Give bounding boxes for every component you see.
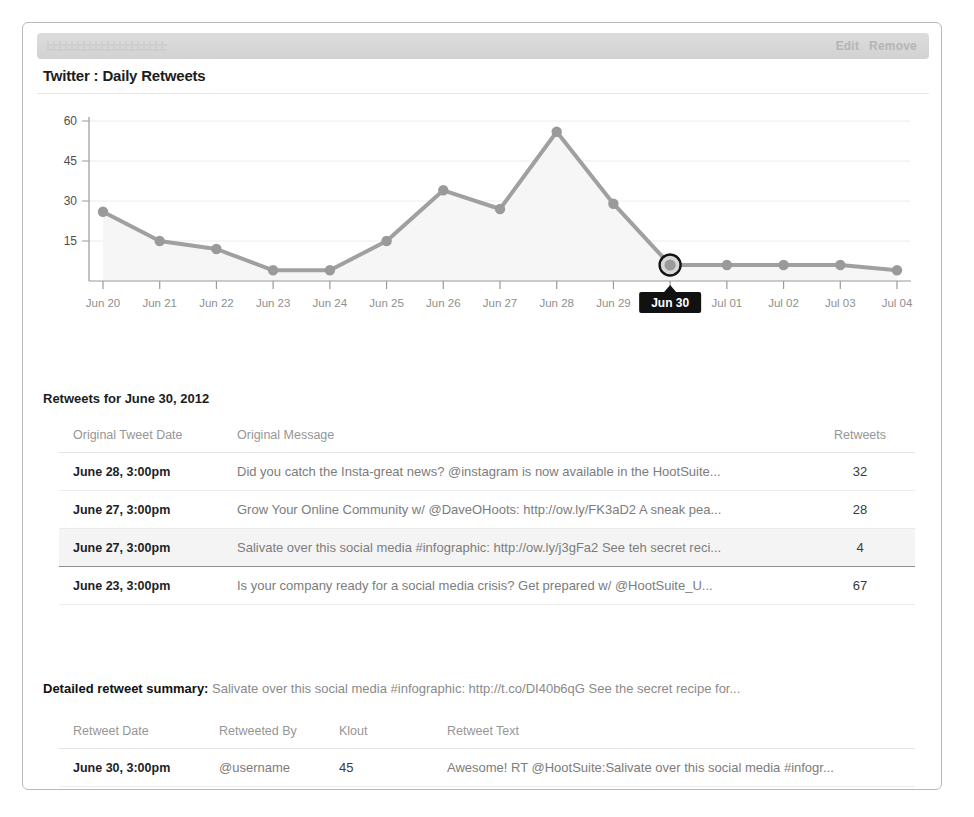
chart-data-point	[552, 127, 562, 137]
x-axis-tick-label: Jul 03	[825, 297, 856, 309]
daily-retweets-chart[interactable]: 15304560Jun 20Jun 21Jun 22Jun 23Jun 24Ju…	[37, 103, 929, 338]
cell-retweets-count: 32	[805, 453, 915, 491]
summary-text: Salivate over this social media #infogra…	[212, 681, 740, 696]
y-axis-tick-label: 30	[64, 194, 78, 208]
retweets-section-heading: Retweets for June 30, 2012	[43, 391, 209, 406]
table-header-row: Retweet Date Retweeted By Klout Retweet …	[59, 715, 915, 749]
cell-original-message: Salivate over this social media #infogra…	[237, 529, 805, 567]
summary-label: Detailed retweet summary:	[43, 681, 208, 696]
column-header-klout[interactable]: Klout	[339, 715, 419, 749]
column-header-original-message[interactable]: Original Message	[237, 419, 805, 453]
chart-data-point	[438, 185, 448, 195]
x-axis-tick-label: Jun 20	[86, 297, 121, 309]
x-axis-tick-label: Jun 25	[369, 297, 404, 309]
chart-data-point	[495, 204, 505, 214]
edit-link[interactable]: Edit	[836, 39, 859, 53]
page-title: Twitter : Daily Retweets	[43, 67, 205, 84]
retweet-detail-table: Retweet Date Retweeted By Klout Retweet …	[59, 715, 915, 787]
module-header-bar[interactable]: Edit Remove	[37, 33, 929, 59]
y-axis-tick-label: 60	[64, 114, 78, 128]
chart-data-point	[778, 260, 788, 270]
remove-link[interactable]: Remove	[869, 39, 917, 53]
x-axis-tick-label: Jul 01	[712, 297, 743, 309]
twitter-retweets-module: Edit Remove Twitter : Daily Retweets 153…	[22, 22, 942, 790]
cell-retweets-count: 28	[805, 491, 915, 529]
y-axis-tick-label: 15	[64, 234, 78, 248]
chart-data-point	[892, 265, 902, 275]
chart-data-point	[268, 265, 278, 275]
x-axis-tick-label: Jun 28	[539, 297, 574, 309]
chart-data-point	[211, 244, 221, 254]
column-header-retweeted-by[interactable]: Retweeted By	[219, 715, 339, 749]
cell-retweet-text: Awesome! RT @HootSuite:Salivate over thi…	[419, 749, 915, 787]
cell-original-tweet-date: June 23, 3:00pm	[59, 567, 237, 605]
cell-retweeted-by: @username	[219, 749, 339, 787]
table-row[interactable]: June 28, 3:00pmDid you catch the Insta-g…	[59, 453, 915, 491]
cell-original-message: Is your company ready for a social media…	[237, 567, 805, 605]
chart-data-point	[608, 199, 618, 209]
x-axis-tick-label: Jun 26	[426, 297, 461, 309]
cell-original-message: Did you catch the Insta-great news? @ins…	[237, 453, 805, 491]
chart-selected-point	[665, 259, 676, 270]
column-header-retweets[interactable]: Retweets	[805, 419, 915, 453]
column-header-retweet-text[interactable]: Retweet Text	[419, 715, 915, 749]
cell-retweets-count: 67	[805, 567, 915, 605]
cell-original-tweet-date: June 28, 3:00pm	[59, 453, 237, 491]
cell-original-tweet-date: June 27, 3:00pm	[59, 529, 237, 567]
chart-data-point	[381, 236, 391, 246]
x-axis-tick-label: Jun 22	[199, 297, 234, 309]
cell-klout-score: 45	[339, 749, 419, 787]
chart-svg: 15304560Jun 20Jun 21Jun 22Jun 23Jun 24Ju…	[37, 103, 929, 338]
drag-handle-icon[interactable]	[47, 41, 167, 51]
x-axis-tick-label: Jun 27	[483, 297, 518, 309]
chart-data-point	[835, 260, 845, 270]
column-header-retweet-date[interactable]: Retweet Date	[59, 715, 219, 749]
cell-retweets-count: 4	[805, 529, 915, 567]
module-actions: Edit Remove	[836, 33, 917, 59]
table-row[interactable]: June 30, 3:00pm@username45Awesome! RT @H…	[59, 749, 915, 787]
cell-retweet-date: June 30, 3:00pm	[59, 749, 219, 787]
x-axis-tick-label: Jun 29	[596, 297, 631, 309]
table-row[interactable]: June 23, 3:00pmIs your company ready for…	[59, 567, 915, 605]
x-axis-tick-label: Jul 04	[882, 297, 913, 309]
retweets-table: Original Tweet Date Original Message Ret…	[59, 419, 915, 605]
chart-data-point	[98, 207, 108, 217]
retweet-detail-table-body: June 30, 3:00pm@username45Awesome! RT @H…	[59, 749, 915, 787]
chart-tooltip-label: Jun 30	[651, 296, 689, 310]
chart-data-point	[155, 236, 165, 246]
chart-data-point	[722, 260, 732, 270]
cell-original-message: Grow Your Online Community w/ @DaveOHoot…	[237, 491, 805, 529]
cell-original-tweet-date: June 27, 3:00pm	[59, 491, 237, 529]
x-axis-tick-label: Jun 21	[142, 297, 177, 309]
table-row[interactable]: June 27, 3:00pmGrow Your Online Communit…	[59, 491, 915, 529]
chart-tooltip-pointer	[664, 285, 676, 292]
detailed-retweet-summary: Detailed retweet summary: Salivate over …	[43, 681, 923, 696]
table-row[interactable]: June 27, 3:00pmSalivate over this social…	[59, 529, 915, 567]
retweets-table-body: June 28, 3:00pmDid you catch the Insta-g…	[59, 453, 915, 605]
chart-data-point	[325, 265, 335, 275]
y-axis-tick-label: 45	[64, 154, 78, 168]
x-axis-tick-label: Jun 23	[256, 297, 291, 309]
x-axis-tick-label: Jul 02	[768, 297, 799, 309]
x-axis-tick-label: Jun 24	[313, 297, 348, 309]
title-divider	[37, 93, 929, 94]
column-header-original-tweet-date[interactable]: Original Tweet Date	[59, 419, 237, 453]
table-header-row: Original Tweet Date Original Message Ret…	[59, 419, 915, 453]
